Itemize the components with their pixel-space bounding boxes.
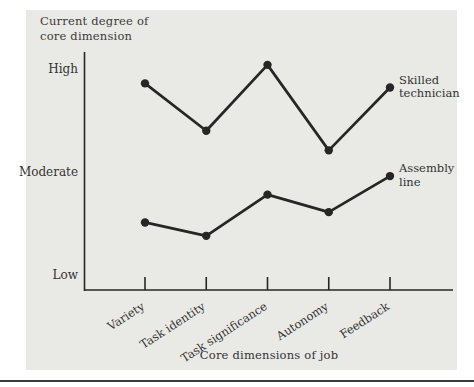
- data-point-s0-4: [386, 83, 394, 91]
- y-tick-label-low: Low: [53, 268, 78, 282]
- data-point-s1-2: [263, 190, 271, 198]
- series-line-0: [145, 65, 390, 150]
- data-point-s1-4: [386, 172, 394, 180]
- x-axis-title: Core dimensions of job: [85, 348, 453, 362]
- series-label-line: line: [399, 176, 454, 190]
- data-point-s0-0: [141, 79, 149, 87]
- data-point-s1-3: [325, 208, 333, 216]
- y-axis-title-line1: Current degree of: [40, 14, 149, 29]
- y-tick-label-high: High: [48, 62, 78, 76]
- series-label-line: technician: [399, 87, 460, 101]
- y-axis-title: Current degree of core dimension: [40, 14, 149, 44]
- y-tick-label-moderate: Moderate: [19, 165, 78, 179]
- data-point-s0-2: [263, 61, 271, 69]
- y-axis-title-line2: core dimension: [40, 29, 149, 44]
- bottom-rule: [0, 380, 474, 382]
- series-label-line: Skilled: [399, 74, 460, 88]
- data-point-s1-0: [141, 218, 149, 226]
- series-line-1: [145, 176, 390, 236]
- figure: Current degree of core dimension HighMod…: [0, 0, 474, 387]
- series-label-0: Skilledtechnician: [399, 74, 460, 101]
- series-label-1: Assemblyline: [399, 162, 454, 189]
- data-point-s0-3: [325, 146, 333, 154]
- data-point-s0-1: [202, 127, 210, 135]
- series-label-line: Assembly: [399, 162, 454, 176]
- data-point-s1-1: [202, 232, 210, 240]
